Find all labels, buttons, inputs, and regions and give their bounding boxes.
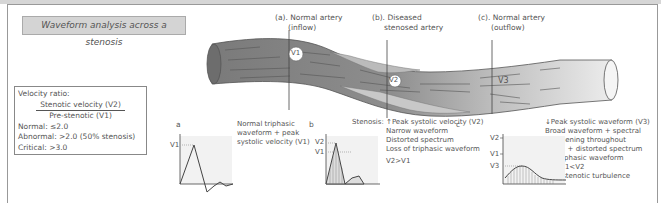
panel-c-axis-v2: V2	[490, 134, 499, 144]
panel-a-axis-v1: V1	[170, 141, 179, 151]
panel-b-axis-v2: V2	[315, 138, 324, 148]
waveform-graphs	[0, 0, 661, 203]
panel-c-axis-v1: V1	[490, 150, 499, 160]
panel-c-axis-v3: V3	[490, 162, 499, 172]
panel-b-axis-v1: V1	[315, 148, 324, 158]
